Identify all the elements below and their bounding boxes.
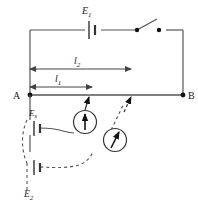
- slider-contact-2[interactable]: [124, 97, 131, 112]
- label-e2: E2: [23, 189, 34, 202]
- galvanometer-1: [74, 111, 97, 134]
- es-branch-wires: [30, 95, 74, 152]
- galvanometer-2: [104, 129, 127, 152]
- battery-es-symbol: [34, 121, 40, 136]
- battery-e1-symbol: [89, 21, 95, 39]
- wire-e2-to-galv2: [40, 152, 93, 168]
- circuit-svg: E1 l2 l1 A B Es: [0, 0, 198, 207]
- label-l2: l2: [74, 55, 81, 69]
- driver-loop-wires: [30, 30, 183, 95]
- dimension-l1: l1: [30, 73, 92, 87]
- label-e1: E1: [81, 5, 92, 19]
- wire-es-to-galv: [40, 128, 74, 133]
- label-es: Es: [28, 108, 38, 119]
- junction-b-dot: [181, 93, 186, 98]
- dimension-l2: l2: [30, 55, 131, 69]
- battery-e2-symbol: [34, 160, 40, 175]
- circuit-diagram-figure: E1 l2 l1 A B Es: [0, 0, 198, 207]
- wire-galv2-to-slider: [111, 103, 124, 130]
- slider-contact-1[interactable]: [85, 97, 89, 110]
- switch-open-knife[interactable]: [135, 19, 161, 32]
- label-l1: l1: [55, 73, 61, 87]
- label-terminal-a: A: [13, 90, 21, 101]
- label-terminal-b: B: [188, 90, 195, 101]
- wire-e2-left-curve: [23, 120, 28, 163]
